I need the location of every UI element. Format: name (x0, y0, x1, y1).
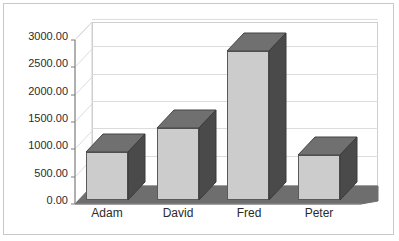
y-tick-label: 1000.00 (4, 140, 68, 151)
y-axis-labels: 3000.00 2500.00 2000.00 1500.00 1000.00 … (2, 0, 68, 241)
x-tick-label-adam: Adam (72, 206, 142, 220)
x-tick-label-peter: Peter (284, 206, 354, 220)
chart-screenshot: 3000.00 2500.00 2000.00 1500.00 1000.00 … (0, 0, 399, 241)
x-tick-label-david: David (143, 206, 213, 220)
y-axis-ticks (71, 40, 75, 204)
bar-david[interactable] (157, 0, 217, 241)
y-tick-label: 1500.00 (4, 113, 68, 124)
x-axis-labels: Adam David Fred Peter (0, 206, 399, 226)
y-tick-label: 0.00 (4, 195, 68, 206)
bar-fred[interactable] (227, 0, 287, 241)
x-tick-label-fred: Fred (214, 206, 284, 220)
y-tick-label: 2500.00 (4, 58, 68, 69)
bar-adam[interactable] (86, 0, 146, 241)
y-tick-label: 500.00 (4, 168, 68, 179)
y-tick-label: 2000.00 (4, 86, 68, 97)
bar-side-face (269, 33, 286, 200)
y-tick-label: 3000.00 (4, 31, 68, 42)
bar-peter[interactable] (298, 0, 358, 241)
